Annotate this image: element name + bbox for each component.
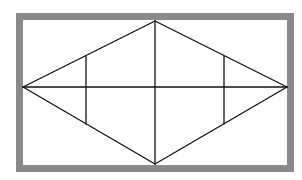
- rhombus-edge-top-left: [23, 21, 155, 87]
- diagram-canvas: [0, 0, 302, 180]
- rhombus-edge-bottom-right: [155, 87, 287, 164]
- rhombus-edge-top-right: [155, 21, 287, 87]
- rhombus-edge-bottom-left: [23, 87, 155, 164]
- diagram-segments: [23, 21, 287, 164]
